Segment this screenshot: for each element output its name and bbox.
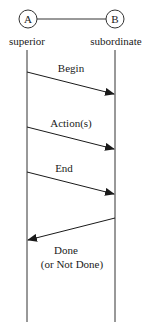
message-begin: Begin xyxy=(27,62,114,94)
participant-a-role: superior xyxy=(9,35,45,47)
participant-a-label: A xyxy=(24,13,32,25)
arrow-right-icon xyxy=(27,72,114,94)
message-begin-label: Begin xyxy=(58,62,85,74)
message-done-sublabel: (or Not Done) xyxy=(41,258,104,271)
message-actions: Action(s) xyxy=(27,117,114,149)
message-done-label: Done xyxy=(54,244,78,256)
message-actions-label: Action(s) xyxy=(50,117,92,130)
arrow-right-icon xyxy=(27,172,114,194)
message-end: End xyxy=(27,162,114,194)
participant-b-role: subordinate xyxy=(90,35,141,47)
arrow-left-icon xyxy=(28,218,115,240)
participant-b: B subordinate xyxy=(90,10,141,47)
message-end-label: End xyxy=(55,162,73,174)
participant-b-label: B xyxy=(111,13,118,25)
message-done: Done (or Not Done) xyxy=(28,218,115,271)
participant-a: A superior xyxy=(9,10,45,47)
arrow-right-icon xyxy=(27,127,114,149)
sequence-diagram: A superior B subordinate Begin Action(s)… xyxy=(0,0,151,332)
